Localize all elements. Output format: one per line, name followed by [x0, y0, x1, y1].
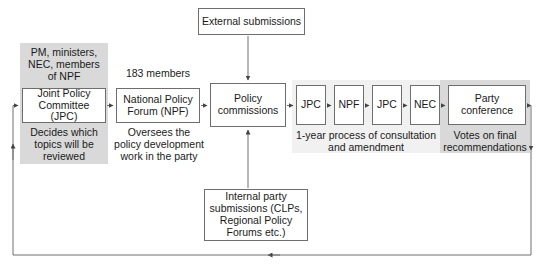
- node-party-conference[interactable]: Party conference: [448, 85, 526, 125]
- caption-jpc-role: Decides which topics will be reviewed: [20, 126, 108, 163]
- node-stage-jpc-2[interactable]: JPC: [372, 85, 402, 125]
- node-national-policy-forum[interactable]: National Policy Forum (NPF): [116, 88, 200, 123]
- node-stage-jpc-1-label: JPC: [299, 99, 323, 111]
- node-internal-party-submissions-label: Internal party submissions (CLPs, Region…: [208, 191, 305, 239]
- caption-npf-role: Oversees the policy development work in …: [110, 126, 208, 163]
- arrow-feedback-into-jpc: [13, 106, 18, 146]
- feedback-line-bottom-right: [271, 150, 531, 255]
- caption-consultation-stage: 1-year process of consultation and amend…: [292, 129, 440, 153]
- caption-jpc-membership: PM, ministers, NEC, members of NPF: [20, 46, 108, 83]
- node-stage-nec-label: NEC: [412, 99, 438, 111]
- policy-process-flowchart: PM, ministers, NEC, members of NPF 183 m…: [0, 0, 536, 271]
- node-policy-commissions-label: Policy commissions: [216, 93, 281, 117]
- node-joint-policy-committee-label: Joint Policy Committee (JPC): [23, 88, 105, 124]
- caption-npf-membership: 183 members: [114, 67, 202, 79]
- node-party-conference-label: Party conference: [449, 93, 525, 117]
- node-external-submissions-label: External submissions: [200, 16, 303, 28]
- node-stage-npf-label: NPF: [337, 99, 362, 111]
- caption-conference-role: Votes on final recommendations: [440, 129, 530, 153]
- node-external-submissions[interactable]: External submissions: [198, 8, 305, 35]
- node-stage-npf[interactable]: NPF: [334, 85, 364, 125]
- node-stage-nec[interactable]: NEC: [410, 85, 440, 125]
- node-joint-policy-committee[interactable]: Joint Policy Committee (JPC): [22, 88, 106, 123]
- node-national-policy-forum-label: National Policy Forum (NPF): [121, 94, 194, 118]
- node-policy-commissions[interactable]: Policy commissions: [210, 83, 286, 127]
- node-internal-party-submissions[interactable]: Internal party submissions (CLPs, Region…: [204, 189, 308, 241]
- node-stage-jpc-2-label: JPC: [375, 99, 399, 111]
- node-stage-jpc-1[interactable]: JPC: [296, 85, 326, 125]
